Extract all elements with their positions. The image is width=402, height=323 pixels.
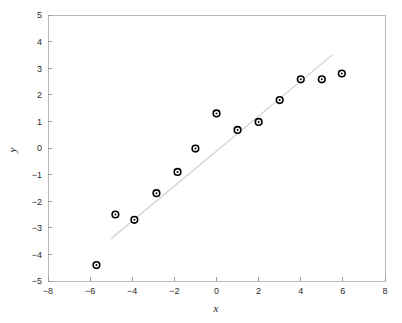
x-tick-label: −6 (85, 286, 95, 296)
data-point-center (258, 121, 260, 123)
x-tick-label: −4 (127, 286, 137, 296)
y-tick-label: 0 (37, 143, 42, 153)
x-tick-label: −2 (169, 286, 179, 296)
y-tick-label: 5 (37, 10, 42, 20)
y-tick-label: 3 (37, 64, 42, 74)
x-tick-label: 8 (382, 286, 387, 296)
y-tick-label: −4 (32, 250, 42, 260)
x-tick-label: 2 (256, 286, 261, 296)
y-tick-label: −1 (32, 170, 42, 180)
y-tick-label: −3 (32, 223, 42, 233)
scatter-plot: −8−6−4−202468 −5−4−3−2−1012345 x y (0, 0, 402, 323)
x-axis-label: x (213, 302, 219, 314)
y-tick-label: −5 (32, 276, 42, 286)
x-tick-label: −8 (43, 286, 53, 296)
plot-background (0, 0, 402, 323)
data-point-center (237, 129, 239, 131)
data-point-center (341, 73, 343, 75)
y-tick-label: 4 (37, 37, 42, 47)
data-point-center (114, 214, 116, 216)
figure-canvas: −8−6−4−202468 −5−4−3−2−1012345 x y (0, 0, 402, 323)
data-point-center (155, 192, 157, 194)
y-axis-label: y (6, 147, 18, 153)
x-tick-label: 6 (340, 286, 345, 296)
data-point-center (300, 78, 302, 80)
data-point-center (177, 171, 179, 173)
y-tick-label: 1 (37, 117, 42, 127)
y-tick-label: 2 (37, 90, 42, 100)
data-point-center (95, 264, 97, 266)
data-point-center (133, 219, 135, 221)
data-point-center (194, 148, 196, 150)
x-tick-label: 0 (214, 286, 219, 296)
x-tick-label: 4 (298, 286, 303, 296)
data-point-center (321, 78, 323, 80)
data-point-center (279, 99, 281, 101)
data-point-center (216, 112, 218, 114)
y-tick-label: −2 (32, 197, 42, 207)
